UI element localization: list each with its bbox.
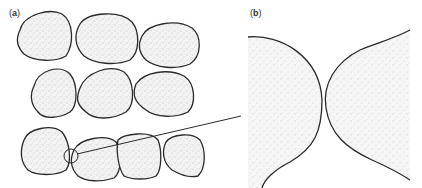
- panel-a-grains: [17, 12, 204, 181]
- grain: [117, 134, 161, 179]
- grain: [31, 69, 76, 117]
- grain: [139, 23, 199, 68]
- grain: [17, 12, 71, 61]
- grain: [71, 138, 120, 181]
- grain: [134, 72, 193, 116]
- grain: [76, 14, 138, 64]
- grain: [164, 135, 205, 177]
- panel-b-contact: [248, 30, 410, 188]
- grain: [21, 128, 69, 175]
- grain: [78, 69, 133, 118]
- grain-diagram: [0, 0, 422, 188]
